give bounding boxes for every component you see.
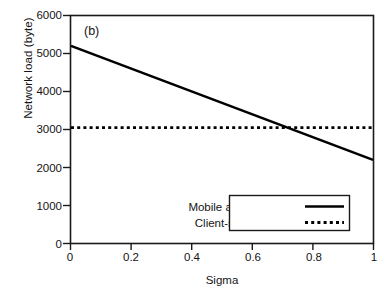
series-line-mobile-agents [71, 46, 373, 160]
y-axis-ticks [63, 16, 71, 244]
x-axis-ticks [71, 244, 374, 251]
legend-box [230, 196, 350, 231]
chart-figure: Network load (byte) 6000 5000 4000 3000 … [0, 0, 387, 301]
plot-canvas [0, 0, 387, 301]
